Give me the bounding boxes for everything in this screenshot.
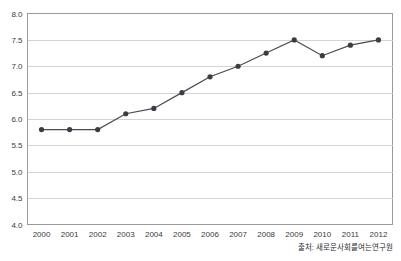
data-point-marker — [95, 127, 100, 132]
chart-container: 4.04.55.05.56.06.57.07.58.0 200020012002… — [0, 0, 401, 261]
x-axis-tick-label: 2008 — [257, 230, 275, 239]
x-axis-tick-label: 2010 — [313, 230, 331, 239]
data-point-marker — [235, 64, 240, 69]
y-axis-tick-label: 7.5 — [11, 36, 23, 45]
data-point-marker — [376, 37, 381, 42]
data-point-marker — [264, 50, 269, 55]
data-point-marker — [348, 43, 353, 48]
x-axis-tick-label: 2012 — [370, 230, 388, 239]
data-point-marker — [67, 127, 72, 132]
x-axis-tick-label: 2007 — [229, 230, 247, 239]
data-point-marker — [320, 53, 325, 58]
x-axis-tick-label: 2004 — [145, 230, 163, 239]
y-axis-tick-label: 7.0 — [11, 62, 23, 71]
y-axis-tick-labels: 4.04.55.05.56.06.57.07.58.0 — [11, 10, 23, 230]
data-point-marker — [151, 106, 156, 111]
data-point-marker — [123, 111, 128, 116]
data-point-marker — [39, 127, 44, 132]
y-axis-tick-label: 6.0 — [11, 115, 23, 124]
x-axis-tick-label: 2003 — [117, 230, 135, 239]
line-chart: 4.04.55.05.56.06.57.07.58.0 200020012002… — [0, 0, 401, 261]
y-axis-tick-label: 5.0 — [11, 168, 23, 177]
y-axis-tick-label: 5.5 — [11, 141, 23, 150]
x-axis-tick-label: 2000 — [33, 230, 51, 239]
x-axis-tick-label: 2009 — [285, 230, 303, 239]
y-axis-tick-label: 6.5 — [11, 89, 23, 98]
data-point-marker — [179, 90, 184, 95]
x-axis-tick-label: 2005 — [173, 230, 191, 239]
x-axis-tick-label: 2006 — [201, 230, 219, 239]
x-axis-tick-label: 2011 — [342, 230, 360, 239]
x-axis-tick-label: 2001 — [61, 230, 79, 239]
y-axis-tick-label: 8.0 — [11, 10, 23, 19]
data-point-marker — [207, 74, 212, 79]
source-note: 출처: 새로운사회를여는연구원 — [298, 242, 393, 252]
x-axis-tick-label: 2002 — [89, 230, 107, 239]
y-axis-tick-label: 4.5 — [11, 194, 23, 203]
x-axis-tick-labels: 2000200120022003200420052006200720082009… — [33, 230, 388, 239]
y-axis-tick-label: 4.0 — [11, 221, 23, 230]
data-point-marker — [292, 37, 297, 42]
